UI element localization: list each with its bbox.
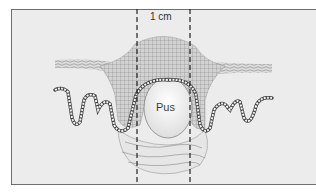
measurement-label: 1 cm <box>150 11 172 22</box>
abscess-illustration <box>0 0 316 192</box>
pus-label: Pus <box>156 101 175 113</box>
dermis-band-right <box>215 62 272 74</box>
